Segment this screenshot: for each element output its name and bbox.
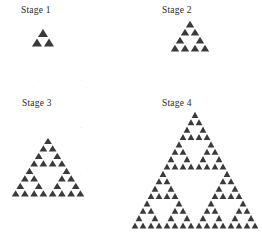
stage-2-sierpinski-triangle xyxy=(170,20,210,52)
sierpinski-unit-triangle xyxy=(172,208,179,214)
sierpinski-unit-triangle xyxy=(44,138,52,144)
sierpinski-unit-triangle xyxy=(180,222,187,228)
sierpinski-unit-triangle xyxy=(180,208,187,214)
sierpinski-unit-triangle xyxy=(200,127,207,133)
sierpinski-unit-triangle xyxy=(208,141,215,147)
sierpinski-unit-triangle xyxy=(204,208,211,214)
sierpinski-unit-triangle xyxy=(156,222,163,228)
sierpinski-unit-triangle xyxy=(216,186,223,192)
sierpinski-unit-triangle xyxy=(186,21,194,28)
sierpinski-unit-triangle xyxy=(188,119,195,125)
sierpinski-unit-triangle xyxy=(172,222,179,228)
sierpinski-unit-triangle xyxy=(152,215,159,221)
sierpinski-unit-triangle xyxy=(63,168,71,174)
sierpinski-unit-triangle xyxy=(212,193,219,199)
sierpinski-unit-triangle xyxy=(181,45,189,52)
sierpinski-unit-triangle xyxy=(144,200,151,206)
stage-2-svg xyxy=(170,20,210,52)
sierpinski-unit-triangle xyxy=(180,134,187,140)
stage-1-svg xyxy=(31,28,55,47)
sierpinski-unit-triangle xyxy=(39,160,47,166)
sierpinski-unit-triangle xyxy=(212,163,219,169)
sierpinski-unit-triangle xyxy=(58,175,66,181)
sierpinski-unit-triangle xyxy=(39,190,47,196)
stage-4-svg xyxy=(131,111,259,229)
sierpinski-unit-triangle xyxy=(30,175,38,181)
sierpinski-unit-triangle xyxy=(212,222,219,228)
sierpinski-unit-triangle xyxy=(232,186,239,192)
stage-1-sierpinski-triangle xyxy=(31,28,55,47)
sierpinski-unit-triangle xyxy=(240,200,247,206)
sierpinski-unit-triangle xyxy=(196,134,203,140)
sierpinski-unit-triangle xyxy=(188,134,195,140)
sierpinski-unit-triangle xyxy=(76,190,84,196)
sierpinski-unit-triangle xyxy=(180,149,187,155)
sierpinski-unit-triangle xyxy=(216,156,223,162)
sierpinski-unit-triangle xyxy=(176,200,183,206)
stage-2-label: Stage 2 xyxy=(162,6,192,16)
sierpinski-unit-triangle xyxy=(180,163,187,169)
sierpinski-unit-triangle xyxy=(164,178,171,184)
sierpinski-unit-triangle xyxy=(244,208,251,214)
sierpinski-unit-triangle xyxy=(200,215,207,221)
sierpinski-unit-triangle xyxy=(58,160,66,166)
sierpinski-unit-triangle xyxy=(168,215,175,221)
sierpinski-unit-triangle xyxy=(191,45,199,52)
sierpinski-unit-triangle xyxy=(39,145,47,151)
sierpinski-unit-triangle xyxy=(140,222,147,228)
stage-3-sierpinski-triangle xyxy=(11,137,85,197)
sierpinski-unit-triangle xyxy=(204,149,211,155)
sierpinski-unit-triangle xyxy=(53,153,61,159)
sierpinski-unit-triangle xyxy=(204,163,211,169)
sierpinski-unit-triangle xyxy=(176,37,184,44)
sierpinski-unit-triangle xyxy=(32,39,42,47)
sierpinski-unit-triangle xyxy=(136,215,143,221)
sierpinski-unit-triangle xyxy=(201,45,209,52)
sierpinski-unit-triangle xyxy=(236,193,243,199)
sierpinski-unit-triangle xyxy=(152,186,159,192)
sierpinski-unit-triangle xyxy=(196,37,204,44)
sierpinski-unit-triangle xyxy=(72,183,80,189)
sierpinski-unit-triangle xyxy=(196,222,203,228)
sierpinski-unit-triangle xyxy=(244,222,251,228)
sierpinski-unit-triangle xyxy=(148,222,155,228)
stage-3-label: Stage 3 xyxy=(22,99,52,109)
sierpinski-unit-triangle xyxy=(16,183,24,189)
sierpinski-unit-triangle xyxy=(156,178,163,184)
sierpinski-unit-triangle xyxy=(53,183,61,189)
sierpinski-unit-triangle xyxy=(44,39,54,47)
sierpinski-unit-triangle xyxy=(172,193,179,199)
sierpinski-unit-triangle xyxy=(156,193,163,199)
sierpinski-unit-triangle xyxy=(35,153,43,159)
sierpinski-unit-triangle xyxy=(220,163,227,169)
sierpinski-unit-triangle xyxy=(176,141,183,147)
sierpinski-unit-triangle xyxy=(164,222,171,228)
sierpinski-unit-triangle xyxy=(196,119,203,125)
sierpinski-unit-triangle xyxy=(172,149,179,155)
sierpinski-unit-triangle xyxy=(184,127,191,133)
sierpinski-unit-triangle xyxy=(212,208,219,214)
sierpinski-unit-triangle xyxy=(184,156,191,162)
sierpinski-unit-triangle xyxy=(212,149,219,155)
sierpinski-unit-triangle xyxy=(236,208,243,214)
sierpinski-unit-triangle xyxy=(191,29,199,36)
sierpinski-unit-triangle xyxy=(49,190,57,196)
sierpinski-unit-triangle xyxy=(220,222,227,228)
sierpinski-unit-triangle xyxy=(208,200,215,206)
sierpinski-unit-triangle xyxy=(30,160,38,166)
sierpinski-unit-triangle xyxy=(224,171,231,177)
stage-1-label: Stage 1 xyxy=(21,6,51,16)
sierpinski-unit-triangle xyxy=(140,208,147,214)
sierpinski-stages-figure: Stage 1 Stage 2 Stage 3 Stage 4 xyxy=(0,0,262,240)
stage-4-label: Stage 4 xyxy=(162,99,192,109)
sierpinski-unit-triangle xyxy=(67,175,75,181)
sierpinski-unit-triangle xyxy=(200,156,207,162)
sierpinski-unit-triangle xyxy=(204,134,211,140)
sierpinski-unit-triangle xyxy=(172,163,179,169)
sierpinski-unit-triangle xyxy=(220,193,227,199)
sierpinski-unit-triangle xyxy=(228,178,235,184)
sierpinski-unit-triangle xyxy=(148,193,155,199)
sierpinski-unit-triangle xyxy=(148,208,155,214)
sierpinski-unit-triangle xyxy=(220,178,227,184)
sierpinski-unit-triangle xyxy=(216,215,223,221)
